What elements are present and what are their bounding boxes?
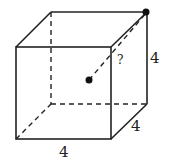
edge-top-left [16, 12, 51, 47]
height-label: 4 [150, 49, 160, 67]
cube-diagram: ? 4 4 4 [0, 0, 169, 164]
center-to-corner-segment [89, 12, 147, 80]
hidden-edge-depth [16, 104, 51, 139]
corner-point [143, 9, 150, 16]
edge-top-right [111, 12, 147, 47]
unknown-label: ? [117, 53, 123, 67]
depth-label: 4 [131, 117, 141, 135]
edge-bottom-right [111, 104, 147, 139]
center-point [86, 77, 93, 84]
bottom-label: 4 [59, 143, 69, 161]
